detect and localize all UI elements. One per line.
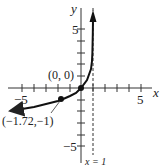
function-graph: y x −5 5 5 −5 (0, 0) (−1.72,−1) x = 1 bbox=[0, 0, 160, 166]
x-tick-label-neg5: −5 bbox=[14, 92, 28, 107]
y-tick-label-neg5: −5 bbox=[63, 139, 77, 154]
point-origin bbox=[78, 85, 84, 91]
y-axis-label: y bbox=[69, 1, 77, 16]
x-tick-label-pos5: 5 bbox=[137, 92, 144, 107]
asymptote-label: x = 1 bbox=[84, 156, 106, 166]
point-neg bbox=[58, 96, 64, 102]
y-tick-label-pos5: 5 bbox=[72, 22, 79, 37]
origin-point-label: (0, 0) bbox=[48, 68, 74, 82]
arrow-up-icon bbox=[90, 10, 97, 22]
neg-point-label: (−1.72,−1) bbox=[2, 114, 54, 128]
x-axis-label: x bbox=[152, 85, 159, 100]
